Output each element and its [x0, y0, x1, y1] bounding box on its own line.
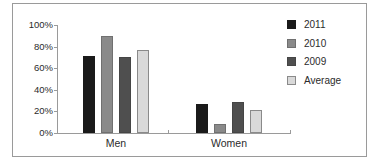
legend-swatch-icon	[287, 76, 296, 85]
legend-label: 2010	[304, 38, 326, 49]
legend-swatch-icon	[287, 39, 296, 48]
y-tick-mark	[54, 25, 57, 26]
category-label-women: Women	[199, 137, 259, 149]
bar-men-2009	[119, 57, 131, 133]
legend-label: Average	[304, 75, 341, 86]
bar-men-2011	[83, 56, 95, 133]
category-label-men: Men	[86, 137, 146, 149]
bar-women-2010	[214, 124, 226, 133]
bar-chart: 0%20%40%60%80%100% MenWomen 201120102009…	[0, 0, 373, 164]
y-tick-mark	[54, 47, 57, 48]
y-tick-label: 20%	[19, 106, 53, 116]
y-tick-mark	[54, 90, 57, 91]
y-tick-mark	[54, 68, 57, 69]
y-tick-label: 40%	[19, 85, 53, 95]
legend-label: 2009	[304, 56, 326, 67]
y-tick-label: 80%	[19, 42, 53, 52]
bar-women-2009	[232, 102, 244, 133]
y-tick-label: 60%	[19, 63, 53, 73]
y-tick-mark	[54, 111, 57, 112]
x-tick-mark	[290, 130, 291, 134]
y-axis-line	[57, 25, 58, 134]
bar-men-2010	[101, 36, 113, 133]
legend-swatch-icon	[287, 20, 296, 29]
x-tick-mark	[168, 130, 169, 134]
y-tick-mark	[54, 133, 57, 134]
bar-women-2011	[196, 104, 208, 133]
legend-label: 2011	[304, 19, 326, 30]
y-tick-label: 100%	[19, 20, 53, 30]
bar-women-average	[250, 110, 262, 133]
x-axis-line	[57, 133, 291, 134]
y-tick-label: 0%	[19, 128, 53, 138]
legend-swatch-icon	[287, 57, 296, 66]
bar-men-average	[137, 50, 149, 133]
